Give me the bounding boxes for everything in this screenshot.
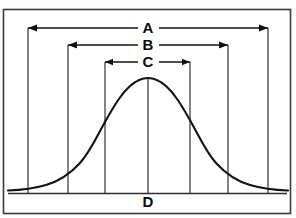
bell-curve-figure: A B C D — [0, 0, 296, 218]
bell-curve-diagram: A B C D — [0, 0, 296, 218]
span-b-label: B — [143, 36, 154, 53]
baseline-label: D — [143, 193, 154, 210]
span-a-label: A — [143, 19, 154, 36]
span-c-label: C — [143, 53, 154, 70]
